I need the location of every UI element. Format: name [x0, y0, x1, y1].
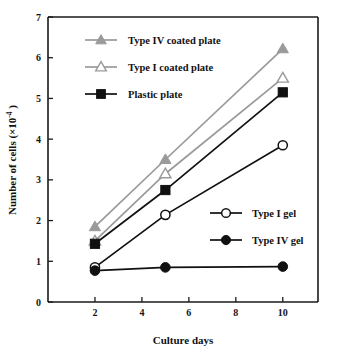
data-point [161, 263, 171, 273]
legend-label: Type IV coated plate [128, 35, 221, 46]
x-tick-label: 6 [186, 307, 191, 318]
legend-item-plastic-plate: Plastic plate [85, 89, 183, 100]
y-tick-label: 2 [36, 215, 41, 226]
series-line [95, 267, 283, 271]
x-axis-title: Culture days [153, 334, 214, 346]
y-tick-label: 4 [36, 134, 41, 145]
legend-marker [222, 209, 231, 218]
data-point [277, 72, 288, 82]
y-tick-label: 1 [36, 256, 41, 267]
legend-bottom: Type I gelType IV gel [210, 208, 304, 246]
legend-item-type-iv-gel: Type IV gel [210, 235, 304, 246]
data-point [277, 43, 288, 53]
line-chart: 01234567 246810 Type IV coated plateType… [0, 0, 353, 358]
legend-item-type-i-gel: Type I gel [210, 208, 296, 219]
chart-container: 01234567 246810 Type IV coated plateType… [0, 0, 353, 358]
svg-text:Number of cells (×10-4 ): Number of cells (×10-4 ) [5, 105, 19, 215]
y-tick-label: 5 [36, 93, 41, 104]
x-tick-label: 10 [278, 307, 288, 318]
y-tick-label: 6 [36, 52, 41, 63]
y-tick-label: 7 [36, 12, 41, 23]
data-point [161, 185, 170, 194]
x-tick-label: 2 [92, 307, 97, 318]
legend-label: Type I coated plate [128, 62, 214, 73]
legend-label: Plastic plate [128, 89, 183, 100]
data-point [90, 239, 99, 248]
series-type-i-gel [90, 141, 287, 272]
x-tick-label: 4 [139, 307, 144, 318]
legend-item-type-iv-coated-plate: Type IV coated plate [85, 35, 221, 46]
y-tick-label: 0 [36, 297, 41, 308]
legend-label: Type I gel [252, 208, 296, 219]
legend-item-type-i-coated-plate: Type I coated plate [85, 62, 214, 73]
series-plastic-plate [90, 88, 287, 249]
legend-top: Type IV coated plateType I coated plateP… [85, 35, 221, 100]
series-type-iv-gel [90, 262, 287, 276]
data-point [278, 141, 287, 150]
x-tick-label: 8 [233, 307, 238, 318]
legend-label: Type IV gel [252, 235, 304, 246]
y-axis-title: Number of cells (×10-4 ) [5, 105, 19, 215]
y-tick-label: 3 [36, 174, 41, 185]
legend-marker [221, 235, 230, 244]
y-axis-ticks: 01234567 [36, 12, 53, 308]
x-axis-ticks: 246810 [92, 297, 287, 318]
series-line [95, 145, 283, 267]
data-point [278, 88, 287, 97]
data-point [278, 262, 288, 272]
data-point [161, 210, 170, 219]
data-point [90, 266, 100, 276]
series-line [95, 92, 283, 243]
legend-marker [97, 90, 106, 99]
